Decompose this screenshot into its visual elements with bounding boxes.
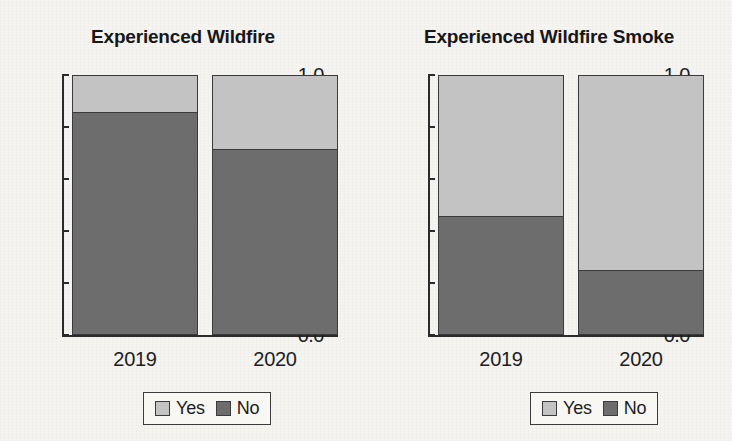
x-tick-label-left-2020: 2020 [212,348,338,371]
bar-segment-yes[interactable] [439,76,563,217]
legend-item-no[interactable]: No [216,398,260,419]
stacked-bar[interactable] [578,75,704,335]
legend-swatch-no-icon [216,401,231,416]
legend-label-no: No [237,398,260,419]
x-axis-right [428,335,704,337]
legend-swatch-yes-icon [155,401,170,416]
stacked-bar[interactable] [438,75,564,335]
legend-right: Yes No [530,392,658,425]
legend-item-yes[interactable]: Yes [542,398,592,419]
chart-panel-wildfire: Experienced Wildfire 1.0 0.8 0.6 0.4 0.2… [0,0,366,441]
x-axis-left [62,335,338,337]
x-tick-label-left-2019: 2019 [72,348,198,371]
plot-area-right: 1.0 0.8 0.6 0.4 0.2 0.0 [438,75,704,335]
y-tick-left-1 [62,126,69,128]
x-tick-label-right-2020: 2020 [578,348,704,371]
y-tick-left-4 [62,282,69,284]
y-tick-right-3 [428,230,435,232]
y-tick-left-0 [62,74,69,76]
chart-title-right: Experienced Wildfire Smoke [366,26,732,48]
legend-left: Yes No [143,392,271,425]
legend-item-yes[interactable]: Yes [155,398,205,419]
y-tick-right-2 [428,178,435,180]
bar-segment-yes[interactable] [213,76,337,150]
legend-label-no: No [624,398,647,419]
y-tick-right-4 [428,282,435,284]
bar-segment-no[interactable] [439,217,563,334]
y-tick-left-2 [62,178,69,180]
y-tick-right-0 [428,74,435,76]
legend-item-no[interactable]: No [603,398,647,419]
bar-segment-no[interactable] [213,150,337,334]
bar-segment-no[interactable] [579,271,703,334]
y-tick-left-3 [62,230,69,232]
stacked-bar[interactable] [212,75,338,335]
y-axis-right [428,74,430,336]
bar-segment-no[interactable] [73,113,197,334]
chart-title-left: Experienced Wildfire [0,26,366,48]
y-tick-right-5 [428,334,435,336]
bar-segment-yes[interactable] [579,76,703,271]
plot-area-left: 1.0 0.8 0.6 0.4 0.2 0.0 [72,75,338,335]
bar-segment-yes[interactable] [73,76,197,113]
chart-page: Experienced Wildfire 1.0 0.8 0.6 0.4 0.2… [0,0,732,441]
legend-label-yes: Yes [563,398,592,419]
stacked-bar[interactable] [72,75,198,335]
y-axis-left [62,74,64,336]
legend-label-yes: Yes [176,398,205,419]
legend-swatch-no-icon [603,401,618,416]
x-tick-label-right-2019: 2019 [438,348,564,371]
y-tick-right-1 [428,126,435,128]
legend-swatch-yes-icon [542,401,557,416]
y-tick-left-5 [62,334,69,336]
